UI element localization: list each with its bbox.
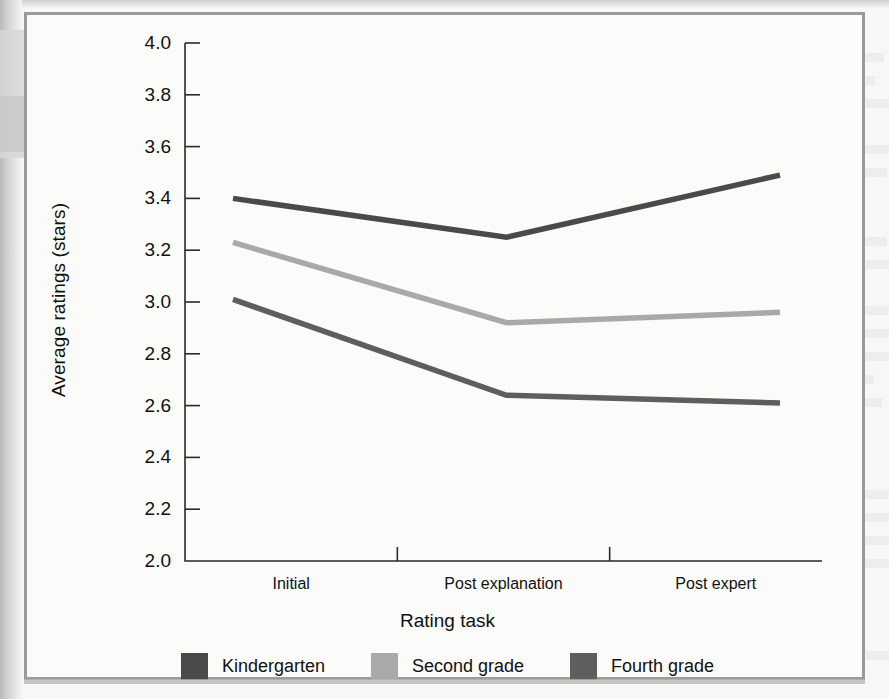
y-axis-title: Average ratings (stars) xyxy=(48,100,70,500)
y-axis-tick-label: 3.4 xyxy=(111,188,171,207)
legend-item: Second grade xyxy=(371,653,524,680)
legend-label: Fourth grade xyxy=(611,656,714,677)
scan-edge-top xyxy=(0,0,889,8)
legend-item: Fourth grade xyxy=(570,653,714,680)
y-axis-tick-label: 2.6 xyxy=(111,396,171,415)
y-axis-tick-label: 4.0 xyxy=(111,33,171,52)
series-line-second-grade xyxy=(233,242,780,322)
y-axis-tick-label: 2.4 xyxy=(111,447,171,466)
y-axis-tick-label: 3.0 xyxy=(111,292,171,311)
scanned-page-background: Average ratings (stars) Rating task 2.02… xyxy=(0,0,889,699)
x-axis-tick-label: Initial xyxy=(272,575,309,593)
axis-spine xyxy=(185,43,822,561)
legend-swatch-icon xyxy=(181,653,208,680)
x-axis-tick-label: Post explanation xyxy=(444,575,562,593)
y-axis-tick-label: 3.8 xyxy=(111,85,171,104)
legend-swatch-icon xyxy=(371,653,398,680)
y-axis-tick-label: 2.0 xyxy=(111,551,171,570)
legend-label: Kindergarten xyxy=(222,656,325,677)
x-axis-tick-label: Post expert xyxy=(675,575,756,593)
x-axis-title: Rating task xyxy=(27,610,868,632)
y-axis-tick-label: 2.8 xyxy=(111,344,171,363)
legend-item: Kindergarten xyxy=(181,653,325,680)
series-line-kindergarten xyxy=(233,175,780,237)
line-chart: Average ratings (stars) Rating task 2.02… xyxy=(27,15,868,683)
legend-label: Second grade xyxy=(412,656,524,677)
legend-swatch-icon xyxy=(570,653,597,680)
chart-legend: KindergartenSecond gradeFourth grade xyxy=(27,653,868,680)
y-axis-tick-label: 3.6 xyxy=(111,137,171,156)
figure-frame: Average ratings (stars) Rating task 2.02… xyxy=(24,12,865,680)
y-axis-tick-label: 3.2 xyxy=(111,240,171,259)
y-axis-tick-label: 2.2 xyxy=(111,499,171,518)
